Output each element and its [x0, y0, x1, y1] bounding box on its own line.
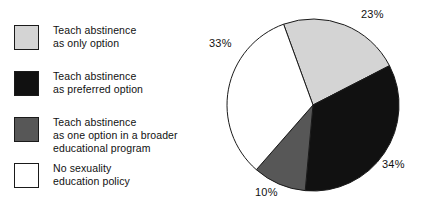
legend-label-no-policy: No sexuality education policy	[53, 162, 130, 188]
legend-label-abstinence-preferred: Teach abstinence as preferred option	[53, 70, 143, 96]
legend-item-abstinence-only: Teach abstinence as only option	[14, 24, 136, 50]
pie-slices	[227, 19, 399, 191]
pie-value-label-abstinence-preferred: 34%	[382, 158, 405, 170]
legend-item-no-policy: No sexuality education policy	[14, 162, 130, 188]
pie-value-label-abstinence-one-option: 10%	[255, 186, 278, 198]
legend-item-abstinence-preferred: Teach abstinence as preferred option	[14, 70, 143, 96]
pie-value-label-abstinence-only: 23%	[361, 8, 384, 20]
legend-label-abstinence-one-option: Teach abstinence as one option in a broa…	[53, 116, 178, 155]
legend-swatch-abstinence-preferred	[14, 71, 39, 96]
legend-item-abstinence-one-option: Teach abstinence as one option in a broa…	[14, 116, 178, 155]
pie-plot-area: 23% 34% 10% 33%	[215, 0, 430, 209]
pie-chart-figure: Teach abstinence as only option Teach ab…	[0, 0, 430, 209]
chart-legend: Teach abstinence as only option Teach ab…	[0, 0, 215, 209]
legend-label-abstinence-only: Teach abstinence as only option	[53, 24, 136, 50]
pie-svg	[215, 0, 430, 209]
pie-value-label-no-policy: 33%	[209, 37, 232, 49]
legend-swatch-abstinence-one-option	[14, 117, 39, 142]
legend-swatch-no-policy	[14, 163, 39, 188]
legend-swatch-abstinence-only	[14, 25, 39, 50]
